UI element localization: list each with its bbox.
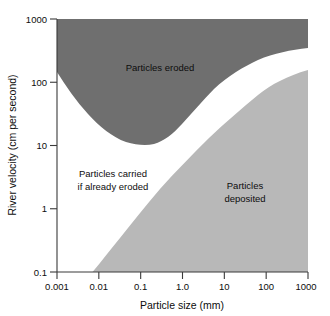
x-tick-label-0.001: 0.001 (45, 281, 69, 292)
region-label-carried-line2: if already eroded (78, 181, 149, 192)
y-tick-label-1000: 1000 (26, 14, 47, 25)
hjulstrom-diagram-figure: Particles eroded Particles carried if al… (0, 0, 330, 316)
y-tick-label-100: 100 (31, 77, 47, 88)
x-tick-label-0.01: 0.01 (90, 281, 109, 292)
region-label-carried-line1: Particles carried (79, 168, 147, 179)
region-label-deposited-line2: deposited (224, 193, 265, 204)
x-tick-label-1000: 1000 (295, 281, 316, 292)
y-tick-label-1: 1 (42, 203, 47, 214)
y-tick-label-0.1: 0.1 (34, 267, 47, 278)
x-tick-label-10: 10 (219, 281, 230, 292)
region-label-deposited-line1: Particles (227, 180, 264, 191)
region-label-eroded: Particles eroded (126, 62, 195, 73)
x-tick-label-100: 100 (258, 281, 274, 292)
y-tick-label-10: 10 (36, 140, 47, 151)
x-axis-title: Particle size (mm) (140, 299, 224, 311)
x-tick-label-1.0: 1.0 (176, 281, 189, 292)
chart-svg: Particles eroded Particles carried if al… (0, 0, 330, 316)
y-axis-title: River velocity (cm per second) (6, 74, 18, 215)
x-tick-label-0.1: 0.1 (134, 281, 147, 292)
